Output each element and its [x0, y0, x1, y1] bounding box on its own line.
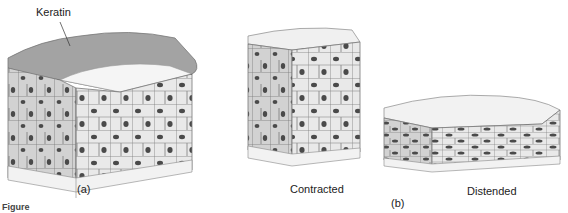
panel-b-label: (b) [391, 197, 404, 209]
epithelium-illustration [0, 0, 568, 213]
panel-a-block [8, 22, 197, 198]
panel-b-contracted-block [248, 28, 360, 166]
panel-a-label: (a) [77, 183, 90, 195]
figure-caption: Figure [2, 202, 30, 212]
keratin-label: Keratin [36, 6, 71, 18]
contracted-caption: Contracted [290, 183, 344, 195]
distended-caption: Distended [467, 185, 517, 197]
panel-b-distended-block [384, 95, 560, 172]
